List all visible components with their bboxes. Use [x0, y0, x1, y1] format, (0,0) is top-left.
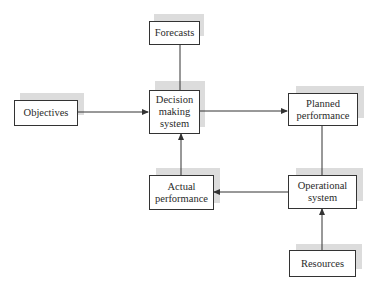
planned-label-line2: performance	[296, 110, 349, 122]
forecasts-box: Forecasts	[149, 21, 200, 45]
forecasts-label: Forecasts	[155, 27, 195, 39]
operational-system-box: Operational system	[288, 175, 357, 209]
decision-label-line2: making	[159, 106, 191, 118]
decision-label-line3: system	[160, 118, 189, 130]
planned-performance-box: Planned performance	[288, 93, 358, 126]
decision-making-system-box: Decision making system	[149, 90, 200, 134]
planned-label-line1: Planned	[306, 98, 340, 110]
objectives-label: Objectives	[24, 107, 69, 119]
resources-label: Resources	[301, 258, 344, 270]
objectives-box: Objectives	[14, 100, 78, 126]
actual-label-line1: Actual	[168, 181, 196, 193]
actual-performance-box: Actual performance	[149, 175, 214, 210]
resources-box: Resources	[289, 250, 356, 277]
actual-label-line2: performance	[155, 193, 208, 205]
operational-label-line2: system	[308, 192, 337, 204]
decision-label-line1: Decision	[156, 94, 193, 106]
operational-label-line1: Operational	[298, 180, 348, 192]
